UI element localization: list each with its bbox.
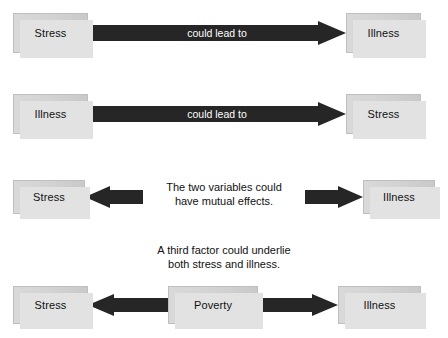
node-label: Illness <box>383 191 415 203</box>
node-stress-row4[interactable]: Stress <box>13 286 88 324</box>
arrow-right-icon <box>258 294 338 316</box>
node-label: Stress <box>368 108 400 120</box>
arrow-poverty-to-illness[interactable] <box>258 294 338 316</box>
node-label: Poverty <box>194 299 232 311</box>
node-stress-row3[interactable]: Stress <box>13 180 85 214</box>
caption-third-factor: A third factor could underlie both stres… <box>134 243 314 271</box>
caption-line-1: A third factor could underlie <box>134 243 314 257</box>
node-poverty-row4[interactable]: Poverty <box>168 286 258 324</box>
node-label: Illness <box>35 108 67 120</box>
node-label: Illness <box>364 299 396 311</box>
node-illness-row3[interactable]: Illness <box>363 180 435 214</box>
arrow-left-icon <box>88 294 168 316</box>
arrow-right-icon <box>88 102 346 126</box>
node-stress-row1[interactable]: Stress <box>13 13 88 53</box>
caption-line-1: The two variables could <box>144 180 304 194</box>
node-illness-row4[interactable]: Illness <box>338 286 421 324</box>
arrow-right-row3[interactable] <box>305 186 363 208</box>
node-illness-row2[interactable]: Illness <box>13 94 88 134</box>
node-label: Stress <box>33 191 65 203</box>
diagram-canvas: Stress could lead to Illness Illness cou… <box>0 0 448 338</box>
node-label: Stress <box>35 27 67 39</box>
caption-line-2: have mutual effects. <box>144 194 304 208</box>
arrow-right-icon <box>88 21 346 45</box>
arrow-right-icon <box>305 186 363 208</box>
caption-mutual-effects: The two variables could have mutual effe… <box>144 180 304 208</box>
node-stress-row2[interactable]: Stress <box>346 94 421 134</box>
arrow-could-lead-to-row2[interactable]: could lead to <box>88 102 346 126</box>
caption-line-2: both stress and illness. <box>134 257 314 271</box>
arrow-left-row3[interactable] <box>85 186 143 208</box>
node-label: Illness <box>368 27 400 39</box>
arrow-could-lead-to-row1[interactable]: could lead to <box>88 21 346 45</box>
arrow-poverty-to-stress[interactable] <box>88 294 168 316</box>
node-illness-row1[interactable]: Illness <box>346 13 421 53</box>
node-label: Stress <box>35 299 67 311</box>
arrow-left-icon <box>85 186 143 208</box>
